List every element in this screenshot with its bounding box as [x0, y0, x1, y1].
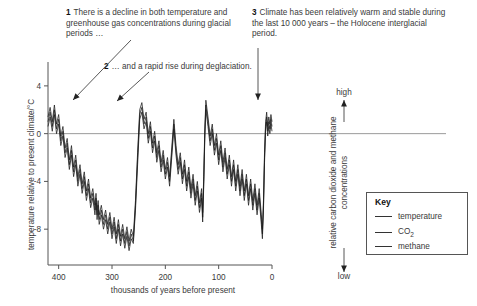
legend: Key temperature CO2 methane — [366, 192, 468, 255]
y-tick-label: -4 — [34, 177, 42, 186]
x-tick-label: 100 — [212, 273, 226, 282]
x-tick-label: 0 — [270, 273, 275, 282]
annotation-1-arrow — [73, 40, 131, 100]
legend-item-temperature: temperature — [375, 212, 442, 221]
x-tick-label: 400 — [52, 273, 66, 282]
right-axis: relative carbon dioxide and methane conc… — [330, 92, 346, 284]
legend-title: Key — [375, 197, 391, 207]
legend-label-co2: CO2 — [398, 227, 414, 236]
x-tick-label: 300 — [105, 273, 119, 282]
y-tick-label: 4 — [36, 82, 41, 91]
legend-swatch-co2 — [375, 232, 392, 233]
annotation-2-arrow — [117, 72, 149, 101]
y-tick-label: -8 — [34, 225, 42, 234]
legend-swatch-methane — [375, 246, 392, 247]
series-line-temperature — [48, 105, 272, 246]
y-tick-label: 0 — [36, 130, 41, 139]
legend-item-methane: methane — [375, 242, 430, 251]
legend-item-co2: CO2 — [375, 227, 414, 238]
legend-label-temperature: temperature — [398, 212, 442, 221]
series-line-methane — [48, 100, 272, 241]
legend-swatch-temperature — [375, 216, 392, 217]
right-axis-title: relative carbon dioxide and methane conc… — [329, 103, 350, 263]
annotation-3-arrow — [255, 48, 261, 100]
x-tick-label: 200 — [158, 273, 172, 282]
chart-plot: 40-4-84003002001000 — [0, 0, 477, 306]
legend-label-methane: methane — [398, 242, 430, 251]
